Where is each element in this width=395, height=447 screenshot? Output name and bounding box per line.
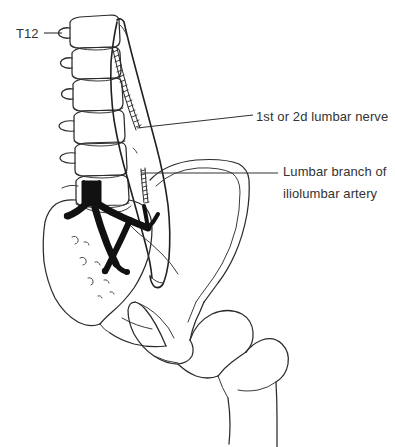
- femur: [190, 311, 288, 447]
- vertebra-t12: [59, 15, 121, 50]
- vertebral-column: [59, 15, 130, 208]
- label-iliolumbar-artery-line1: Lumbar branch of: [283, 164, 387, 179]
- leader-lines: [44, 33, 278, 173]
- label-t12: T12: [16, 23, 39, 45]
- vertebra-l2: [62, 78, 124, 113]
- label-lumbar-nerve: 1st or 2d lumbar nerve: [256, 106, 388, 128]
- anatomical-figure: T12 1st or 2d lumbar nerve Lumbar branch…: [0, 0, 395, 447]
- leader-line-lumbar-nerve: [137, 115, 253, 128]
- vertebra-l4: [60, 142, 127, 178]
- label-iliolumbar-artery: Lumbar branch ofiliolumbar artery: [283, 161, 387, 205]
- obturator-foramen-region: [128, 302, 218, 378]
- label-iliolumbar-artery-line2: iliolumbar artery: [283, 183, 387, 205]
- anatomy-drawing: [0, 0, 395, 447]
